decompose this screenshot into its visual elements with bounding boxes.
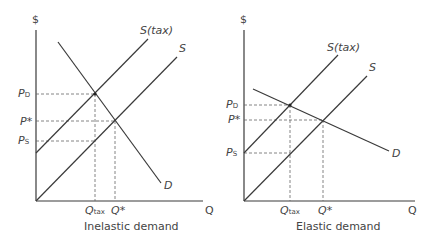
- qtax-label: Qtax: [85, 205, 105, 216]
- pstar-label: P*: [228, 114, 240, 125]
- supply-label: S: [179, 43, 186, 54]
- guide-lines: [36, 94, 115, 201]
- y-axis-label: $: [32, 14, 39, 25]
- qstar-label: Q*: [318, 205, 332, 216]
- x-axis-label: Q: [205, 205, 214, 216]
- guide-lines: [244, 105, 323, 201]
- demand-curve: [253, 89, 389, 151]
- tax-equilibrium-point: [93, 92, 96, 95]
- qstar-label: Q*: [111, 205, 125, 216]
- panel-caption: Elastic demand: [296, 220, 381, 233]
- supply-curve: [36, 57, 177, 201]
- supply-tax-label: S(tax): [327, 42, 360, 53]
- pstar-label: P*: [20, 116, 32, 127]
- demand-curve: [58, 42, 161, 183]
- ps-label: PS: [18, 135, 29, 146]
- x-axis-label: Q: [408, 205, 417, 216]
- ps-label: PS: [226, 147, 237, 158]
- supply-label: S: [369, 62, 376, 73]
- tax-incidence-diagram: [0, 0, 437, 242]
- y-axis-label: $: [240, 14, 247, 25]
- supply-tax-label: S(tax): [140, 25, 173, 36]
- supply-tax-curve: [36, 39, 148, 153]
- demand-label: D: [164, 180, 172, 191]
- panel-elastic: [244, 30, 415, 201]
- demand-label: D: [392, 148, 400, 159]
- supply-curve: [244, 76, 367, 201]
- pd-label: PD: [18, 88, 30, 99]
- pd-label: PD: [226, 99, 238, 110]
- panel-caption: Inelastic demand: [84, 220, 179, 233]
- qtax-label: Qtax: [280, 205, 300, 216]
- panel-inelastic: [36, 30, 203, 201]
- tax-equilibrium-point: [288, 103, 291, 106]
